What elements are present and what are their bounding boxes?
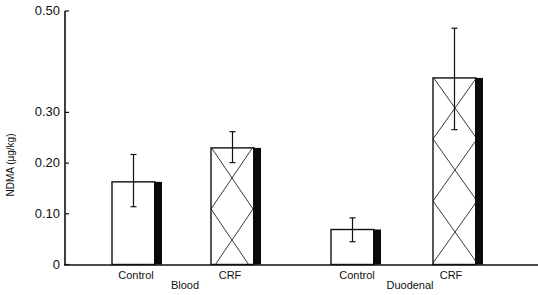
bar-blood-crf [211, 132, 261, 265]
category-label: Control [118, 269, 153, 281]
bar-duodenal-crf [433, 28, 483, 264]
y-tick-label: 0 [53, 257, 60, 272]
y-tick-label: 0.50 [35, 3, 60, 18]
y-tick-label: 0.10 [35, 206, 60, 221]
bar-blood-control [112, 154, 162, 264]
y-ticks: 00.100.200.300.50 [35, 3, 69, 272]
category-label: Control [339, 269, 374, 281]
bar-chart: 00.100.200.300.50 ControlCRFControlCRFBl… [0, 0, 538, 295]
y-axis-label: NDMA (µg/kg) [5, 134, 16, 197]
category-label: CRF [219, 269, 242, 281]
x-labels: ControlCRFControlCRFBloodDuodenal [118, 269, 462, 291]
y-tick-label: 0.30 [35, 104, 60, 119]
category-label: CRF [440, 269, 463, 281]
group-label: Blood [171, 279, 199, 291]
bars [112, 28, 483, 264]
bar-duodenal-control [331, 218, 381, 265]
y-tick-label: 0.20 [35, 155, 60, 170]
group-label: Duodenal [386, 279, 433, 291]
